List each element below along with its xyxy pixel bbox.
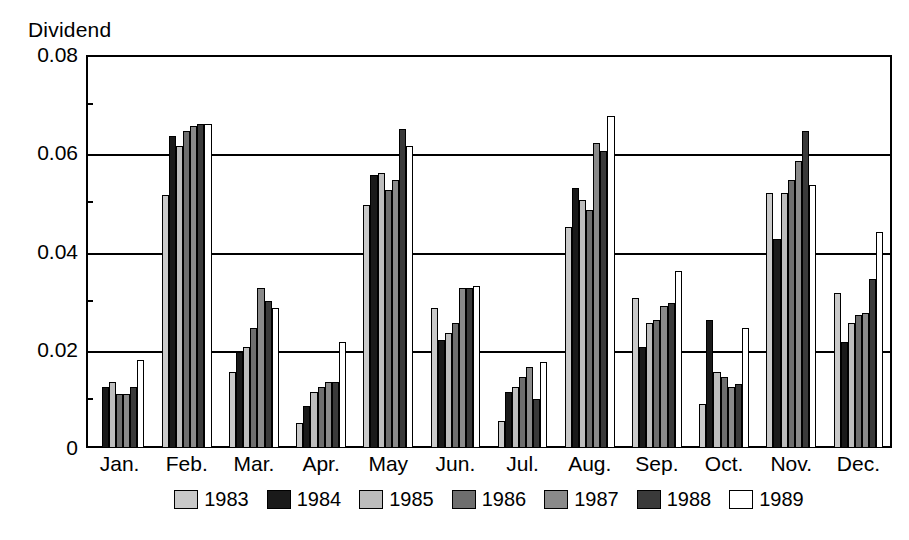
bar (236, 352, 243, 448)
bar (600, 151, 607, 448)
bar (169, 136, 176, 448)
x-tick-label: Jul. (506, 452, 539, 476)
bar (296, 423, 303, 448)
bar (250, 328, 257, 448)
legend-label: 1983 (204, 488, 249, 511)
legend-swatch (359, 490, 383, 509)
bar (438, 340, 445, 448)
bar (473, 286, 480, 448)
bar (176, 146, 183, 448)
bar (713, 372, 720, 448)
legend-item[interactable]: 1983 (174, 488, 249, 511)
bar (183, 131, 190, 448)
bar (459, 288, 466, 448)
y-minor-tick (86, 300, 93, 302)
bar (565, 227, 572, 448)
bar (632, 298, 639, 448)
bar (841, 342, 848, 448)
bar (123, 394, 130, 448)
bar-group (422, 55, 489, 448)
bar (370, 175, 377, 448)
legend-item[interactable]: 1984 (267, 488, 342, 511)
bar (533, 399, 540, 448)
bars-layer (86, 55, 892, 448)
bar (660, 306, 667, 448)
bar-group (86, 55, 153, 448)
legend-item[interactable]: 1987 (544, 488, 619, 511)
bar (809, 185, 816, 448)
bar (378, 173, 385, 448)
legend-item[interactable]: 1989 (729, 488, 804, 511)
legend-label: 1984 (297, 488, 342, 511)
bar (646, 323, 653, 448)
bar (572, 188, 579, 448)
y-axis-title: Dividend (28, 18, 111, 42)
x-tick-label: Nov. (770, 452, 812, 476)
bar (392, 180, 399, 448)
bar (116, 394, 123, 448)
bar (363, 205, 370, 448)
bar (332, 382, 339, 448)
bar (243, 347, 250, 448)
x-tick-label: Feb. (166, 452, 208, 476)
bar (579, 200, 586, 448)
legend-swatch (452, 490, 476, 509)
bar (431, 308, 438, 448)
bar (735, 384, 742, 448)
bar (773, 239, 780, 448)
chart-legend: 1983198419851986198719881989 (86, 485, 892, 513)
legend-swatch (544, 490, 568, 509)
bar (781, 193, 788, 448)
bar (137, 360, 144, 448)
legend-item[interactable]: 1986 (452, 488, 527, 511)
bar (272, 308, 279, 448)
bar (593, 143, 600, 448)
bar-group (355, 55, 422, 448)
bar (862, 313, 869, 448)
bar (869, 279, 876, 448)
bar (639, 347, 646, 448)
bar (653, 320, 660, 448)
bar (498, 421, 505, 448)
legend-item[interactable]: 1985 (359, 488, 434, 511)
x-tick-label: Apr. (302, 452, 339, 476)
bar (668, 303, 675, 448)
bar (795, 161, 802, 448)
y-tick-label: 0.06 (0, 141, 78, 165)
bar (586, 210, 593, 448)
legend-item[interactable]: 1988 (637, 488, 712, 511)
legend-label: 1986 (482, 488, 527, 511)
bar-group (623, 55, 690, 448)
bar (675, 271, 682, 448)
x-tick-label: May (368, 452, 408, 476)
bar (526, 367, 533, 448)
legend-swatch (637, 490, 661, 509)
bar (512, 387, 519, 448)
bar (406, 146, 413, 448)
x-tick-label: Jan. (100, 452, 140, 476)
bar-group (758, 55, 825, 448)
x-tick-label: Sep. (635, 452, 678, 476)
bar (607, 116, 614, 448)
bar (834, 293, 841, 448)
bar (229, 372, 236, 448)
legend-swatch (174, 490, 198, 509)
bar-group (556, 55, 623, 448)
x-tick-label: Oct. (705, 452, 744, 476)
bar (766, 193, 773, 448)
bar (540, 362, 547, 448)
bar (505, 392, 512, 448)
bar (466, 288, 473, 448)
bar (303, 406, 310, 448)
bar (109, 382, 116, 448)
bar (162, 195, 169, 448)
y-minor-tick (86, 398, 93, 400)
bar (310, 392, 317, 448)
bar (197, 124, 204, 448)
bar (265, 301, 272, 448)
bar (742, 328, 749, 448)
bar (519, 377, 526, 448)
bar (385, 190, 392, 448)
bar (721, 377, 728, 448)
bar (802, 131, 809, 448)
